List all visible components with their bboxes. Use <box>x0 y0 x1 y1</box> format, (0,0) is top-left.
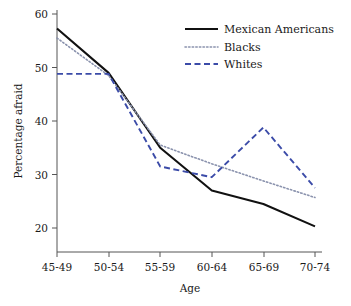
x-tick-label-4: 65-69 <box>249 261 279 273</box>
x-tick-label-1: 50-54 <box>94 261 125 273</box>
x-axis-ticks <box>57 252 315 257</box>
y-tick-label-50: 50 <box>35 62 48 74</box>
x-tick-label-0: 45-49 <box>42 261 72 273</box>
legend-label-blacks: Blacks <box>224 41 261 54</box>
series-line-whites <box>57 74 315 188</box>
y-axis-tick-labels: 60 50 40 30 20 <box>35 8 48 234</box>
y-axis-ticks <box>52 14 57 228</box>
y-tick-label-40: 40 <box>35 115 48 127</box>
chart-figure: 60 50 40 30 20 45-49 50-54 55-59 60-64 6… <box>0 0 351 306</box>
x-axis-tick-labels: 45-49 50-54 55-59 60-64 65-69 70-74 <box>42 261 331 273</box>
y-tick-label-30: 30 <box>35 169 48 181</box>
y-axis-title: Percentage afraid <box>12 83 24 178</box>
y-tick-label-60: 60 <box>35 8 48 20</box>
y-tick-label-20: 20 <box>35 222 48 234</box>
x-tick-label-2: 55-59 <box>145 261 175 273</box>
x-axis-title: Age <box>179 282 201 294</box>
legend-label-whites: Whites <box>224 58 263 71</box>
data-series-group <box>57 28 315 226</box>
chart-legend: Mexican Americans Blacks Whites <box>185 23 334 71</box>
legend-label-mexican-americans: Mexican Americans <box>224 23 334 36</box>
x-tick-label-3: 60-64 <box>197 261 228 273</box>
line-chart: 60 50 40 30 20 45-49 50-54 55-59 60-64 6… <box>0 0 351 306</box>
series-line-mexican-americans <box>57 28 315 226</box>
x-tick-label-5: 70-74 <box>300 261 331 273</box>
